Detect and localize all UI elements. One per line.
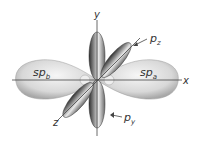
orbital-figure: y x z spb spa pz py [0,0,201,142]
p-y-arrowhead-icon [110,112,114,118]
x-axis-label: x [182,75,189,86]
sp-orbital-diagram: y x z spb spa pz py [0,0,201,142]
z-axis-label: z [52,117,59,128]
p-z-label: pz [149,32,161,47]
y-axis-label: y [93,9,101,20]
p-y-label: py [123,111,136,126]
